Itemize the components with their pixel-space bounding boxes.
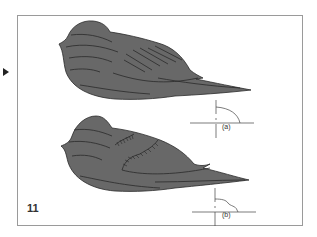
label-b: (b) (222, 211, 231, 218)
bird-b (61, 116, 249, 191)
figure-number: 11 (27, 202, 39, 214)
bird-illustrations (0, 0, 317, 237)
label-a: (a) (222, 123, 231, 130)
profile-diagram-b (192, 188, 256, 228)
bird-a (59, 21, 251, 99)
profile-diagram-a (190, 100, 254, 140)
